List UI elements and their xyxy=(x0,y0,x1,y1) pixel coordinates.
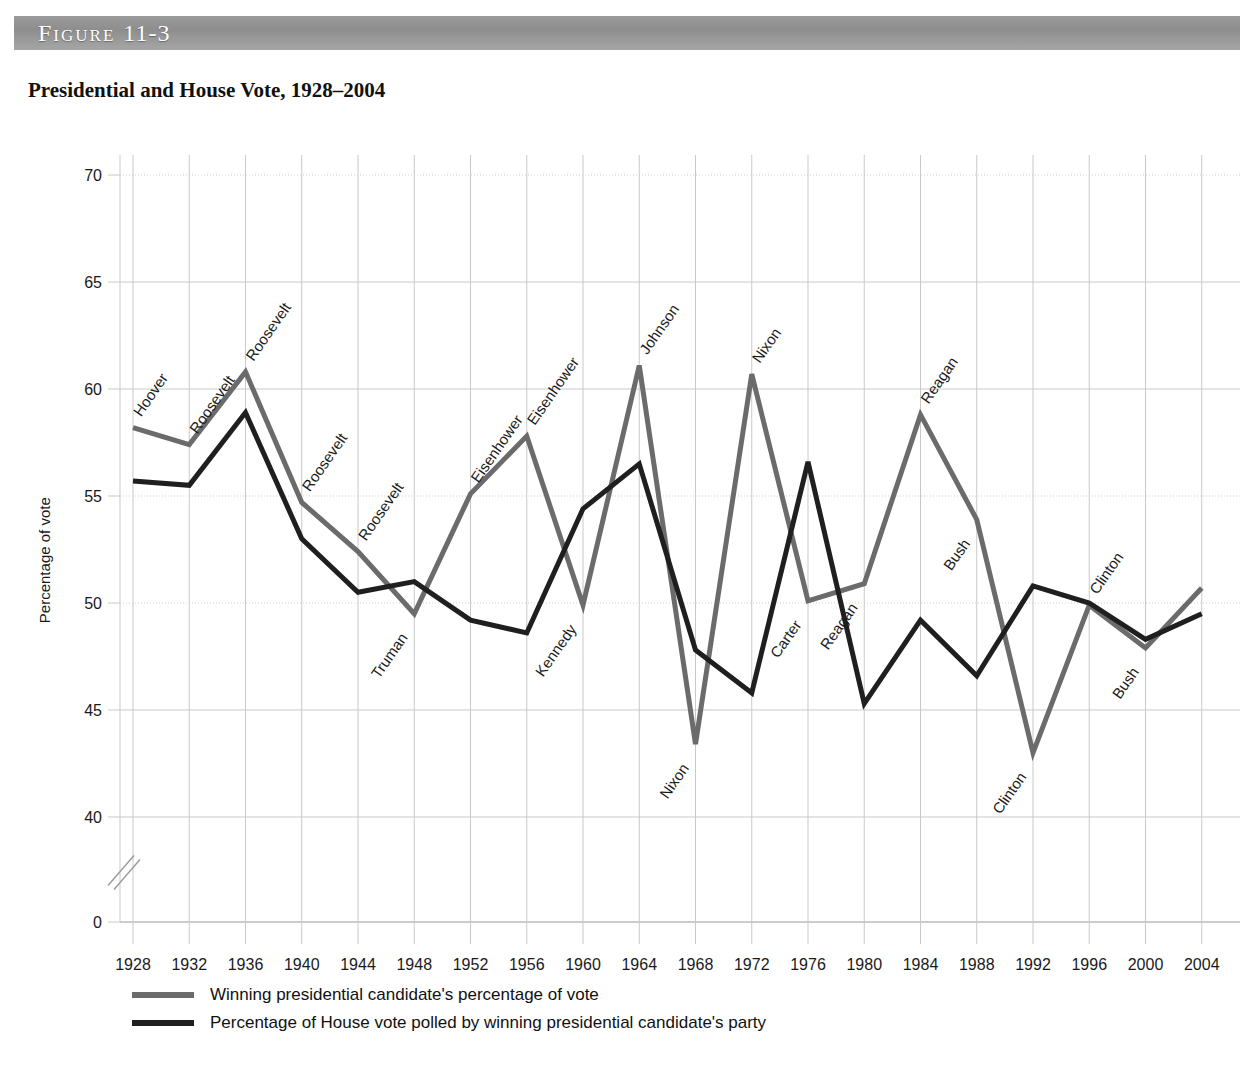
y-tick-label-55: 55 xyxy=(84,488,102,505)
x-tick-label-1952: 1952 xyxy=(453,956,489,973)
point-label-reagan-1984: Reagan xyxy=(917,354,961,407)
point-label-bush-1988: Bush xyxy=(940,536,974,574)
figure-header-bar: Figure 11-3 xyxy=(14,16,1240,50)
series-layer xyxy=(133,365,1202,752)
annotation-layer: HooverRooseveltRooseveltRooseveltRooseve… xyxy=(108,299,1142,890)
y-tick-label-0: 0 xyxy=(93,914,102,931)
y-tick-label-40: 40 xyxy=(84,809,102,826)
tick-layer: 706560555045400Percentage of vote1928193… xyxy=(36,167,1220,973)
x-tick-label-1932: 1932 xyxy=(171,956,207,973)
point-label-roosevelt-1932: Roosevelt xyxy=(186,371,239,436)
figure-number: 11-3 xyxy=(123,20,170,46)
legend-label-0: Winning presidential candidate's percent… xyxy=(210,985,599,1004)
x-tick-label-1944: 1944 xyxy=(340,956,376,973)
figure-title: Presidential and House Vote, 1928–2004 xyxy=(28,78,385,103)
point-label-carter-1976: Carter xyxy=(767,617,805,661)
x-tick-label-2004: 2004 xyxy=(1184,956,1220,973)
y-tick-label-50: 50 xyxy=(84,595,102,612)
x-tick-label-1960: 1960 xyxy=(565,956,601,973)
y-tick-label-65: 65 xyxy=(84,274,102,291)
point-label-hoover-1928: Hoover xyxy=(130,370,172,419)
point-label-johnson-1964: Johnson xyxy=(636,301,682,357)
x-tick-label-1964: 1964 xyxy=(621,956,657,973)
point-label-reagan-1980: Reagan xyxy=(817,600,861,653)
chart-plot-area: HooverRooseveltRooseveltRooseveltRooseve… xyxy=(0,130,1259,1060)
y-axis-title: Percentage of vote xyxy=(36,497,53,623)
point-label-truman-1948: Truman xyxy=(367,630,410,682)
figure-word: Figure xyxy=(38,20,115,46)
grid-layer xyxy=(120,155,1240,944)
point-label-bush-2000: Bush xyxy=(1108,664,1142,702)
x-tick-label-1948: 1948 xyxy=(396,956,432,973)
x-tick-label-1968: 1968 xyxy=(678,956,714,973)
x-tick-label-2000: 2000 xyxy=(1128,956,1164,973)
x-tick-label-1996: 1996 xyxy=(1071,956,1107,973)
y-tick-label-60: 60 xyxy=(84,381,102,398)
x-tick-label-1976: 1976 xyxy=(790,956,826,973)
x-tick-label-1988: 1988 xyxy=(959,956,995,973)
house-vote-line xyxy=(133,413,1202,704)
point-label-clinton-1996: Clinton xyxy=(1086,549,1127,597)
legend-label-1: Percentage of House vote polled by winni… xyxy=(210,1013,767,1032)
x-tick-label-1940: 1940 xyxy=(284,956,320,973)
point-label-nixon-1968: Nixon xyxy=(656,760,692,801)
point-label-roosevelt-1944: Roosevelt xyxy=(355,478,408,543)
point-label-roosevelt-1936: Roosevelt xyxy=(242,299,295,364)
y-tick-label-70: 70 xyxy=(84,167,102,184)
y-tick-label-45: 45 xyxy=(84,702,102,719)
x-tick-label-1984: 1984 xyxy=(903,956,939,973)
figure-root: Figure 11-3 Presidential and House Vote,… xyxy=(0,0,1259,1072)
point-label-nixon-1972: Nixon xyxy=(748,325,784,366)
point-label-eisenhower-1956: Eisenhower xyxy=(523,354,582,428)
legend-layer: Winning presidential candidate's percent… xyxy=(132,985,767,1032)
point-label-roosevelt-1940: Roosevelt xyxy=(298,429,351,494)
x-tick-label-1956: 1956 xyxy=(509,956,545,973)
figure-number-label: Figure 11-3 xyxy=(38,20,170,47)
x-tick-label-1980: 1980 xyxy=(846,956,882,973)
x-tick-label-1972: 1972 xyxy=(734,956,770,973)
x-tick-label-1936: 1936 xyxy=(228,956,264,973)
point-label-kennedy-1960: Kennedy xyxy=(532,621,580,680)
point-label-clinton-1992: Clinton xyxy=(989,769,1030,817)
x-tick-label-1992: 1992 xyxy=(1015,956,1051,973)
x-tick-label-1928: 1928 xyxy=(115,956,151,973)
line-chart: HooverRooseveltRooseveltRooseveltRooseve… xyxy=(0,130,1259,1060)
